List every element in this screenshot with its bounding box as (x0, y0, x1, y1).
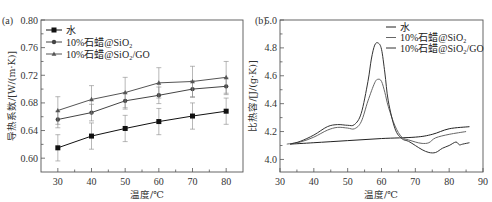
x-tick-label: 30 (53, 176, 63, 187)
figure: (a) 0.600.640.680.720.760.80 30405060708… (0, 0, 492, 202)
panel-label-a: (a) (2, 15, 13, 27)
y-tick-label: 0.80 (21, 15, 39, 26)
series-curve-3 (290, 43, 469, 153)
data-point (123, 126, 128, 131)
legend-a: 水10%石蜡@SiO₂10%石蜡@SiO₂/GO (46, 25, 150, 60)
data-point (156, 119, 161, 124)
y-tick-label: 4.8 (265, 42, 278, 53)
y-tick-label: 0.64 (21, 125, 39, 136)
legend-label: 水 (66, 25, 76, 36)
legend-label: 水 (400, 22, 410, 33)
legend-label: 10%石蜡@SiO₂ (400, 32, 467, 43)
data-point (190, 114, 195, 119)
data-point (89, 134, 94, 139)
series-line-1 (58, 111, 226, 148)
x-tick-label: 60 (154, 176, 164, 187)
legend-marker (52, 28, 57, 33)
series-line-3 (58, 77, 226, 110)
x-axis-title-a: 温度/℃ (130, 189, 164, 200)
legend-label: 10%石蜡@SiO₂ (66, 37, 133, 48)
y-tick-label: 4.0 (265, 154, 278, 165)
x-tick-label: 40 (87, 176, 97, 187)
y-tick-label: 4.6 (265, 70, 278, 81)
y-tick-label: 0.68 (21, 97, 39, 108)
x-tick-label: 50 (120, 176, 130, 187)
x-tick-label: 80 (444, 176, 454, 187)
legend-marker (52, 40, 56, 44)
data-point (224, 75, 229, 79)
x-tick-label: 30 (275, 176, 285, 187)
y-tick-label: 0.76 (21, 42, 39, 53)
x-axis-title-b: 温度/℃ (364, 189, 398, 200)
y-tick-label: 5.0 (265, 15, 278, 26)
x-tick-label: 60 (377, 176, 387, 187)
x-tick-label: 90 (478, 176, 488, 187)
y-tick-label: 0.72 (21, 70, 39, 81)
data-point (224, 109, 229, 114)
series-curve-2 (287, 79, 466, 144)
x-tick-label: 40 (309, 176, 319, 187)
x-tick-label: 70 (188, 176, 198, 187)
y-tick-label: 4.4 (265, 98, 278, 109)
x-tick-label: 50 (343, 176, 353, 187)
y-axis-title-a: 导热系数/[W/(m·K)] (6, 51, 17, 141)
y-axis-title-b: 比热容/[J/(g·K)] (247, 60, 258, 131)
data-point (55, 145, 60, 150)
chart-a: (a) 0.600.640.680.720.760.80 30405060708… (2, 15, 243, 201)
legend-label: 10%石蜡@SiO₂/GO (400, 43, 484, 54)
legend-b: 水10%石蜡@SiO₂10%石蜡@SiO₂/GO (386, 22, 484, 54)
x-tick-label: 70 (410, 176, 420, 187)
y-tick-label: 0.60 (21, 153, 39, 164)
legend-label: 10%石蜡@SiO₂/GO (66, 49, 150, 60)
x-tick-label: 80 (221, 176, 231, 187)
chart-b: (b) 4.04.24.44.64.85.0 30405060708090 温度… (247, 15, 488, 201)
y-tick-label: 4.2 (265, 126, 278, 137)
